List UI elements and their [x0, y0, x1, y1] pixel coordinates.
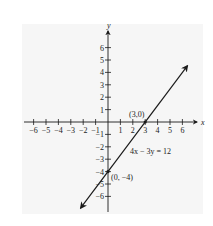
y-tick-label: 2 — [100, 93, 104, 102]
x-tick-label: −3 — [67, 126, 76, 135]
x-tick-label: 4 — [156, 126, 160, 135]
point-label-3-0: (3,0) — [129, 110, 145, 119]
y-tick-label: −6 — [95, 192, 104, 201]
x-axis-label: x — [200, 118, 205, 127]
y-tick-label: 4 — [100, 68, 104, 77]
point-label-0-neg4: (0, −4) — [111, 173, 133, 182]
x-tick-label: −6 — [29, 126, 38, 135]
y-tick-label: −4 — [95, 168, 104, 177]
x-tick-label: 6 — [180, 126, 184, 135]
x-tick-label: 1 — [118, 126, 122, 135]
x-tick-label: −5 — [42, 126, 51, 135]
x-tick-label: −4 — [54, 126, 63, 135]
y-tick-label: 6 — [100, 44, 104, 53]
y-axis-label: y — [106, 21, 111, 30]
coordinate-plane: −6−5−4−3−2−1123456654321−1−2−3−4−5−6xy(3… — [0, 0, 213, 226]
point-3-0 — [144, 120, 147, 123]
x-tick-label: −2 — [79, 126, 88, 135]
y-tick-label: −5 — [95, 180, 104, 189]
y-tick-label: −1 — [95, 130, 104, 139]
y-tick-label: 3 — [100, 81, 104, 90]
y-tick-label: 5 — [100, 56, 104, 65]
y-tick-label: −2 — [95, 143, 104, 152]
x-tick-label: 2 — [131, 126, 135, 135]
x-tick-label: 3 — [143, 126, 147, 135]
y-tick-label: 1 — [100, 106, 104, 115]
equation-label: 4x − 3y = 12 — [130, 147, 171, 156]
axes — [24, 31, 197, 212]
x-tick-label: 5 — [168, 126, 172, 135]
labels: −6−5−4−3−2−1123456654321−1−2−3−4−5−6xy(3… — [29, 21, 205, 201]
y-tick-label: −3 — [95, 155, 104, 164]
point-0-neg4 — [106, 170, 109, 173]
